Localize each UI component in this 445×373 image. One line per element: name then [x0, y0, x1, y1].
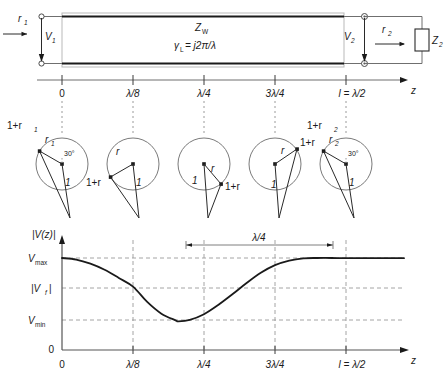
diagram-svg: Z 2 Z W γ L = j2π/λ r 1 V 1 V 2 r 2 z [0, 0, 445, 373]
phasor-r-sub-4: 2 [334, 140, 339, 147]
y-tick-label-vf: |V [31, 283, 42, 294]
characteristic-impedance-sub: W [202, 28, 209, 35]
x-tick-label-4: l = λ/2 [339, 359, 366, 370]
output-voltage-sub: 2 [350, 37, 355, 44]
circle-z-l-lambda-over-2: 1+r 2 r 2 30° 1 [307, 120, 372, 218]
propagation-constant-value: = j2π/λ [185, 40, 216, 51]
phasor-sum-label-3: 1+r [300, 137, 315, 148]
phasor-unit-line-2 [204, 164, 208, 218]
x-tick-label-1: λ/8 [125, 359, 140, 370]
y-tick-sub-vmax: max [35, 259, 48, 266]
x-tick-label-0: 0 [59, 359, 65, 370]
load-impedance-label: Z [431, 35, 439, 46]
phasor-unit-line-3 [275, 164, 279, 218]
voltage-magnitude-plot: λ/4 |V(z)| z V max |V f | V min 0 0 λ/8 … [28, 229, 416, 370]
phasor-r-label-0: r [45, 134, 49, 145]
circle-z-lambda-over-4: r 1+r 1 [178, 138, 240, 218]
phasor-sum-label-1: 1+r [86, 177, 101, 188]
transmission-line-section: Z 2 Z W γ L = j2π/λ r 1 V 1 V 2 r 2 [3, 13, 443, 67]
y-tick-sub-vf: f [45, 289, 48, 296]
position-axis-arrow [400, 77, 408, 83]
phasor-r-label-4: r [329, 134, 333, 145]
phasor-sum-sub-4: 2 [333, 126, 338, 133]
phasor-sum-label-2: 1+r [225, 181, 240, 192]
load-impedance-sub: 2 [438, 41, 443, 48]
load-reflection-label: r [382, 24, 386, 35]
x-axis-label: z [410, 355, 416, 366]
load-resistor-symbol [415, 29, 429, 51]
input-voltage-sub: 1 [52, 37, 56, 44]
y-tick-sub-vmin: min [35, 321, 46, 328]
phasor-unit-label-3: 1 [271, 179, 277, 190]
phasor-sum-label-4: 1+r [307, 120, 322, 131]
phasor-r-label-2: r [211, 163, 215, 174]
position-axis: z 0 λ/8 λ/4 3λ/4 l = λ/2 [37, 75, 416, 99]
propagation-constant-sub: L [180, 46, 184, 53]
phasor-r-label-3: r [281, 145, 285, 156]
phasor-unit-label-1: 1 [136, 177, 142, 188]
phasor-r-label-1: r [116, 146, 120, 157]
phasor-unit-label-2: 1 [192, 175, 198, 186]
position-tick-label-2: λ/4 [196, 88, 211, 99]
x-tick-label-3: 3λ/4 [266, 359, 285, 370]
position-tick-label-4: l = λ/2 [339, 88, 366, 99]
phasor-circle-row: 1+r 1 r 1 30° 1 r 1+r 1 r [7, 101, 372, 218]
circle-z-lambda-over-8: r 1+r 1 [86, 138, 159, 218]
position-tick-label-3: 3λ/4 [266, 88, 285, 99]
phasor-unit-label-0: 1 [65, 177, 71, 188]
source-reflection-sub: 1 [24, 19, 28, 26]
phasor-angle-label-0: 30° [64, 150, 75, 157]
x-axis-arrow [400, 347, 409, 353]
load-reflection-arrow-head [400, 42, 406, 46]
position-axis-label: z [410, 85, 416, 96]
load-reflection-sub: 2 [387, 30, 392, 37]
phasor-unit-label-4: 1 [349, 177, 355, 188]
dimension-label: λ/4 [251, 232, 266, 243]
y-axis-arrow [59, 235, 65, 244]
phasor-r-vector-1 [111, 164, 134, 177]
voltage-magnitude-curve [62, 258, 404, 321]
input-voltage-arrow-head [39, 54, 44, 62]
phasor-angle-label-4: 30° [348, 150, 359, 157]
dimension-arrow-left [186, 243, 192, 247]
phasor-sum-label-0: 1+r [7, 120, 22, 131]
figure-root: Z 2 Z W γ L = j2π/λ r 1 V 1 V 2 r 2 z [0, 0, 445, 373]
phasor-sum-sub-0: 1 [34, 126, 38, 133]
position-tick-label-0: 0 [59, 88, 65, 99]
y-axis-label: |V(z)| [32, 229, 56, 240]
source-reflection-arrow-head [22, 32, 28, 36]
dimension-arrow-right [327, 243, 333, 247]
characteristic-impedance-label: Z [194, 22, 202, 33]
y-tick-label-zero: 0 [48, 344, 54, 355]
position-tick-label-1: λ/8 [125, 88, 140, 99]
x-tick-label-2: λ/4 [196, 359, 211, 370]
source-reflection-label: r [18, 13, 22, 24]
y-tick-close-vf: | [49, 283, 52, 294]
circle-z-3lambda-over-4: r 1+r 1 [249, 137, 315, 218]
phasor-r-sub-0: 1 [51, 140, 55, 147]
circle-z-0: 1+r 1 r 1 30° 1 [7, 120, 88, 218]
